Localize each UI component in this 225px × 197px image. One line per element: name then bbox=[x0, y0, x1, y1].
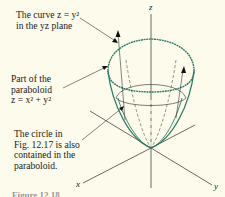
arrow-right bbox=[181, 66, 186, 73]
x-axis bbox=[83, 148, 151, 183]
x-axis-label: x bbox=[76, 179, 80, 189]
figure-caption: Figure 12.18 bbox=[12, 190, 60, 197]
arrow-left bbox=[116, 30, 121, 37]
paraboloid-left-side bbox=[108, 71, 151, 148]
annotation-circle: The circle in Fig. 12.17 is also contain… bbox=[14, 129, 80, 171]
annotation-paraboloid: Part of the paraboloid z = x² + y² bbox=[11, 74, 52, 106]
y-axis-label: y bbox=[214, 181, 218, 191]
z-axis-label: z bbox=[149, 2, 153, 12]
annotation-curve: The curve z = y² in the yz plane bbox=[16, 10, 79, 31]
y-axis bbox=[151, 148, 212, 185]
